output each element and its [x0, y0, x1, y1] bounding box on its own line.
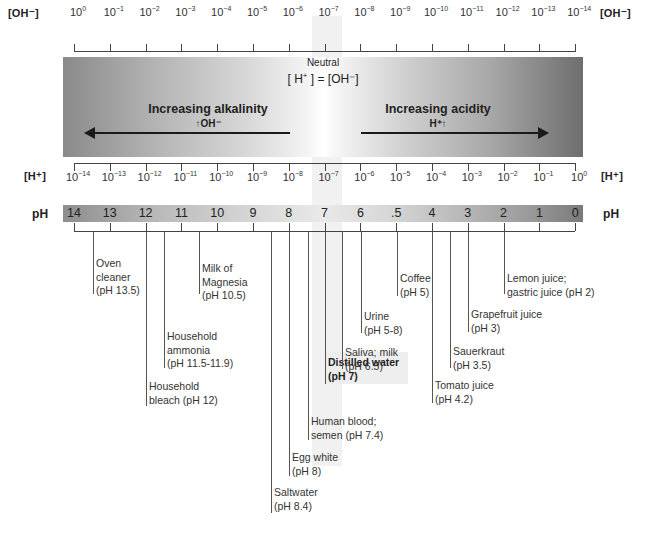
- oh-tick-label: 10−11: [460, 5, 484, 18]
- callout-text-line: Household: [167, 330, 233, 344]
- h-tick: [146, 163, 147, 171]
- h-axis-label-right: [H⁺]: [601, 170, 623, 183]
- callout-text-line: (pH 5-8): [364, 324, 403, 338]
- ph-value: 13: [103, 205, 117, 222]
- ph-bracket-tick: [146, 223, 147, 231]
- ph-value: 0: [572, 205, 579, 222]
- oh-tick-label: 10−7: [318, 5, 338, 18]
- callout-text-line: (pH 8.4): [274, 500, 318, 514]
- h-tick: [468, 163, 469, 171]
- callout-leader-line: [325, 232, 326, 384]
- callout-leader-line: [164, 232, 165, 368]
- ph-example-callout: Saltwater(pH 8.4): [274, 486, 318, 513]
- h-tick: [539, 163, 540, 171]
- callout-leader-line: [342, 232, 343, 369]
- ph-bracket-tick: [253, 223, 254, 231]
- ph-example-callout: Tomato juice(pH 4.2): [435, 379, 494, 406]
- callout-text-line: Oven: [96, 257, 140, 271]
- h-tick: [360, 163, 361, 171]
- acidity-subtitle: H⁺↑: [353, 118, 523, 129]
- ph-value: 12: [139, 205, 153, 222]
- ph-bracket-tick: [74, 223, 75, 231]
- oh-tick-label: 10−4: [211, 5, 231, 18]
- callout-text-line: Milk of: [202, 262, 248, 276]
- ph-example-callout: Milk ofMagnesia(pH 10.5): [202, 262, 248, 303]
- oh-axis-label-right: [OH⁻]: [600, 7, 631, 20]
- alkalinity-subtitle: ↑OH⁻: [123, 118, 293, 129]
- ph-value: 2: [500, 205, 507, 222]
- callout-text-line: Grapefruit juice: [471, 308, 542, 322]
- h-tick: [396, 163, 397, 171]
- oh-tick-label: 100: [70, 5, 86, 18]
- callout-leader-line: [432, 232, 433, 403]
- callout-text-line: Coffee: [400, 272, 431, 286]
- ph-example-callout: Egg white(pH 8): [292, 451, 338, 478]
- h-tick-label: 100: [571, 170, 587, 183]
- neutral-eq-right: ] = [OH⁻]: [308, 72, 359, 86]
- ph-label-right: pH: [603, 207, 619, 221]
- ph-example-callout: Householdammonia(pH 11.5-11.9): [167, 330, 233, 371]
- callout-text-line: Saltwater: [274, 486, 318, 500]
- callout-text-line: Egg white: [292, 451, 338, 465]
- callout-leader-line: [289, 232, 290, 476]
- h-tick-label: 10−13: [102, 170, 126, 183]
- callout-leader-line: [146, 232, 147, 406]
- h-tick: [432, 163, 433, 171]
- oh-tick-label: 10−5: [247, 5, 267, 18]
- ph-value: .5: [391, 205, 401, 222]
- ph-value: 1: [536, 205, 543, 222]
- ph-bracket-tick: [432, 223, 433, 231]
- ph-example-callout: Grapefruit juice(pH 3): [471, 308, 542, 335]
- h-tick-label: 10−1: [533, 170, 553, 183]
- ph-bracket-tick: [468, 223, 469, 231]
- callout-leader-line: [450, 232, 451, 368]
- ph-example-callout: Saliva; milk(pH 6.5): [345, 346, 398, 373]
- h-tick: [575, 163, 576, 171]
- ph-bracket-tick: [181, 223, 182, 231]
- ph-bracket-tick: [396, 223, 397, 231]
- callout-text-line: gastric juice (pH 2): [507, 286, 595, 300]
- callout-text-line: bleach (pH 12): [149, 394, 218, 408]
- neutral-eq-left: [ H: [287, 72, 302, 86]
- h-tick-label: 10−12: [138, 170, 162, 183]
- ph-bracket-tick: [539, 223, 540, 231]
- ph-value: 3: [464, 205, 471, 222]
- callout-text-line: Lemon juice;: [507, 272, 595, 286]
- h-axis-label-left: [H⁺]: [24, 170, 46, 183]
- callout-leader-line: [397, 232, 398, 296]
- h-tick-label: 10−9: [247, 170, 267, 183]
- h-tick-label: 10−6: [354, 170, 374, 183]
- ph-bracket-tick: [325, 223, 326, 231]
- neutral-title: Neutral: [63, 57, 583, 68]
- ph-value: 7: [321, 205, 328, 222]
- h-tick: [325, 163, 326, 171]
- ph-example-callout: Ovencleaner(pH 13.5): [96, 257, 140, 298]
- oh-axis-label-left: [OH⁻]: [8, 7, 39, 20]
- callout-leader-line: [361, 232, 362, 333]
- ph-bracket-tick: [110, 223, 111, 231]
- callout-text-line: (pH 3): [471, 322, 542, 336]
- right-arrow-icon: [361, 132, 547, 134]
- oh-tick-label: 10−13: [531, 5, 555, 18]
- neutral-equation: [ H+ ] = [OH⁻]: [63, 71, 583, 86]
- oh-tick-label: 10−9: [390, 5, 410, 18]
- ph-example-callout: Householdbleach (pH 12): [149, 380, 218, 407]
- ph-value: 11: [175, 205, 188, 222]
- h-tick-label: 10−2: [497, 170, 517, 183]
- callout-leader-line: [199, 232, 200, 294]
- callout-leader-line: [93, 232, 94, 294]
- callout-text-line: Magnesia: [202, 276, 248, 290]
- ph-value: 9: [250, 205, 257, 222]
- callout-text-line: (pH 13.5): [96, 284, 140, 298]
- h-tick: [289, 163, 290, 171]
- ph-example-callout: Urine(pH 5-8): [364, 310, 403, 337]
- h-tick-label: 10−4: [426, 170, 446, 183]
- oh-tick-label: 10−2: [139, 5, 159, 18]
- ph-bracket-tick: [217, 223, 218, 231]
- ph-example-callout: Sauerkraut(pH 3.5): [453, 345, 504, 372]
- callout-text-line: Household: [149, 380, 218, 394]
- ph-bracket-tick: [360, 223, 361, 231]
- ph-example-callout: Lemon juice;gastric juice (pH 2): [507, 272, 595, 299]
- callout-text-line: (pH 5): [400, 286, 431, 300]
- h-tick-label: 10−3: [462, 170, 482, 183]
